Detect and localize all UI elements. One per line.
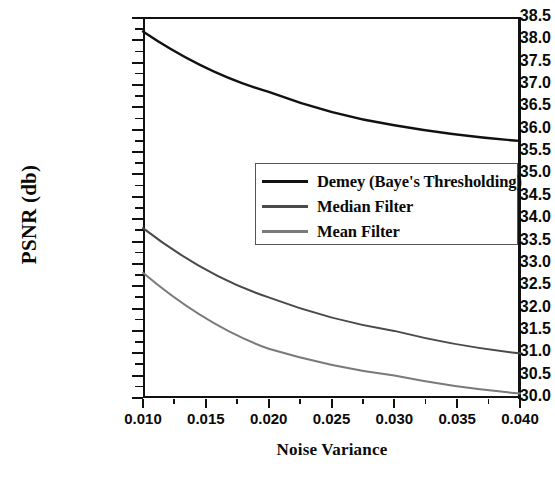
series-line	[143, 273, 520, 394]
legend-item-label: Demey (Baye's Thresholding)	[317, 172, 522, 192]
legend-item: Mean Filter	[262, 219, 517, 244]
chart-legend: Demey (Baye's Thresholding)Median Filter…	[255, 163, 518, 245]
legend-item: Median Filter	[262, 194, 517, 219]
legend-color-swatch	[262, 230, 308, 232]
x-axis-title: Noise Variance	[143, 440, 521, 460]
legend-item-label: Median Filter	[317, 197, 413, 217]
series-line	[143, 31, 520, 140]
legend-color-swatch	[262, 180, 308, 182]
legend-item: Demey (Baye's Thresholding)	[262, 169, 517, 194]
legend-item-label: Mean Filter	[317, 222, 400, 242]
series-line	[143, 228, 520, 353]
legend-color-swatch	[262, 205, 308, 207]
